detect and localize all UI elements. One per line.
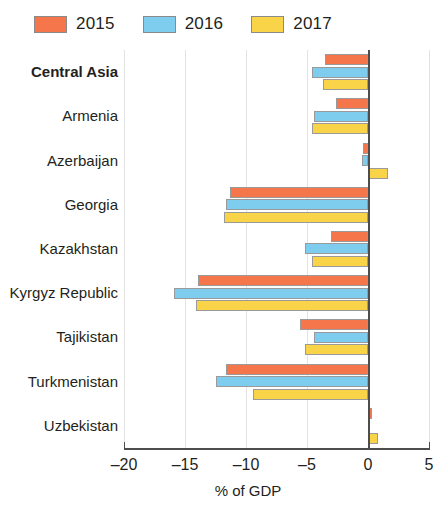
bar-2015 <box>331 231 368 242</box>
bar-group <box>124 360 430 404</box>
bar-group <box>124 227 430 271</box>
bar-2015 <box>325 54 368 65</box>
x-tick-label: –10 <box>226 456 266 474</box>
legend-swatch-2017 <box>251 16 284 33</box>
category-label: Uzbekistan <box>0 417 118 434</box>
bar-group <box>124 315 430 359</box>
bar-2017 <box>253 389 368 400</box>
plot-canvas <box>124 50 430 448</box>
bar-2016 <box>174 288 368 299</box>
category-label: Tajikistan <box>0 328 118 345</box>
axis-end-cap <box>124 442 125 448</box>
bar-2017 <box>312 123 368 134</box>
x-tick-label: –20 <box>104 456 144 474</box>
x-tick-label: –5 <box>287 456 327 474</box>
axis-end-cap <box>429 442 430 448</box>
category-label: Azerbaijan <box>0 152 118 169</box>
bar-group <box>124 404 430 448</box>
category-label: Kazakhstan <box>0 240 118 257</box>
bar-2016 <box>312 67 368 78</box>
bar-2015 <box>230 187 368 198</box>
bar-2017 <box>312 256 368 267</box>
bar-2017 <box>224 212 368 223</box>
category-label: Armenia <box>0 107 118 124</box>
category-label: Central Asia <box>0 63 118 80</box>
bar-2016 <box>305 243 368 254</box>
x-tick-label: 5 <box>409 456 436 474</box>
bar-group <box>124 271 430 315</box>
x-axis-title: % of GDP <box>0 482 436 499</box>
bar-group <box>124 94 430 138</box>
bar-group <box>124 183 430 227</box>
bar-group <box>124 50 430 94</box>
legend-swatch-2015 <box>34 16 67 33</box>
legend-label-2016: 2016 <box>185 14 224 34</box>
bar-2015 <box>226 364 368 375</box>
bar-2017 <box>368 168 388 179</box>
bar-chart-plot-area <box>124 50 369 448</box>
category-label: Georgia <box>0 196 118 213</box>
bar-2016 <box>216 376 369 387</box>
legend-label-2015: 2015 <box>76 14 115 34</box>
legend-item-2015: 2015 <box>34 14 115 34</box>
legend-item-2017: 2017 <box>251 14 332 34</box>
x-tick-label: 0 <box>348 456 388 474</box>
legend-swatch-2016 <box>143 16 176 33</box>
bar-2017 <box>305 344 368 355</box>
bar-2015 <box>336 98 368 109</box>
category-label: Turkmenistan <box>0 373 118 390</box>
bar-group <box>124 138 430 182</box>
bar-2017 <box>323 79 368 90</box>
category-label: Kyrgyz Republic <box>0 284 118 301</box>
bar-2015 <box>198 275 368 286</box>
bar-2017 <box>196 300 368 311</box>
x-axis-title-text: % of GDP <box>215 482 282 499</box>
chart-legend: 2015 2016 2017 <box>0 6 436 42</box>
bar-2016 <box>226 199 368 210</box>
bar-2016 <box>314 111 368 122</box>
legend-label-2017: 2017 <box>293 14 332 34</box>
bar-2015 <box>300 319 368 330</box>
x-axis-line <box>124 448 430 450</box>
x-tick-label: –15 <box>165 456 205 474</box>
bar-2016 <box>314 332 368 343</box>
legend-item-2016: 2016 <box>143 14 224 34</box>
zero-axis-line <box>368 50 370 448</box>
